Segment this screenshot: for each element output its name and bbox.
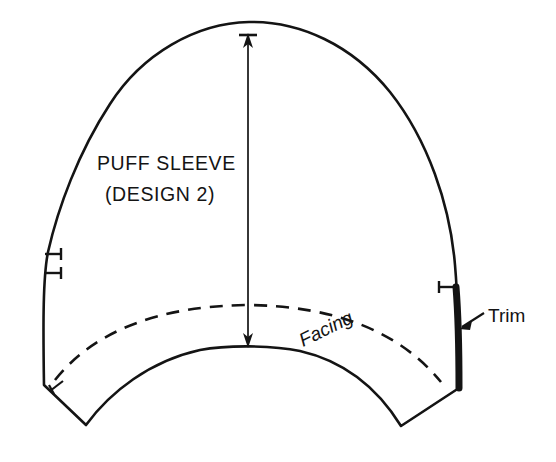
- pattern-drawing-canvas: PUFF SLEEVE (DESIGN 2) Facing Trim: [0, 0, 556, 462]
- trim-label: Trim: [488, 305, 525, 326]
- piece-variant-label: (DESIGN 2): [105, 183, 215, 205]
- sleeve-outline-group: [43, 22, 459, 426]
- trim-arrow-shaft: [462, 313, 484, 327]
- trim-callout-arrow-group: [459, 313, 484, 330]
- piece-name-label: PUFF SLEEVE: [97, 152, 236, 174]
- sleeve-cap-outline: [43, 22, 459, 426]
- pattern-diagram: PUFF SLEEVE (DESIGN 2) Facing Trim: [0, 0, 556, 462]
- trim-edge-thick-stroke: [456, 287, 459, 388]
